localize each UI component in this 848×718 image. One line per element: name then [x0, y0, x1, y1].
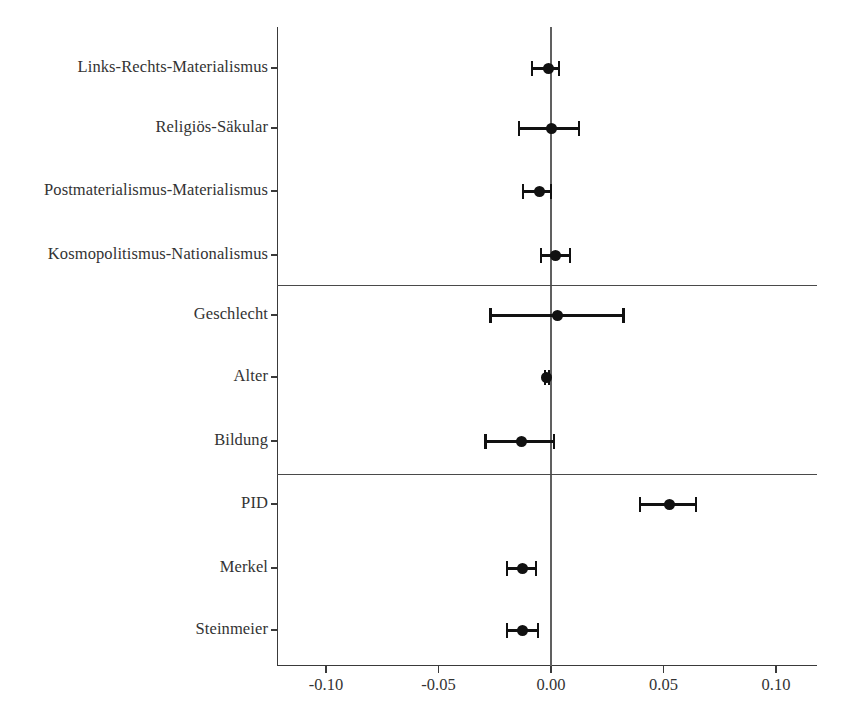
panel-separator-2: [277, 474, 817, 475]
coefficient-plot: Links-Rechts-MaterialismusReligiös-Säkul…: [0, 0, 848, 718]
confidence-interval-cap-lower: [518, 121, 521, 136]
x-axis-label-text: -0.10: [286, 676, 366, 694]
confidence-interval-cap-upper: [622, 308, 625, 323]
confidence-interval-cap-upper: [569, 248, 572, 263]
point-estimate-marker: [517, 563, 528, 574]
point-estimate-marker: [550, 250, 561, 261]
point-estimate-marker: [534, 186, 545, 197]
panel-separator-1: [277, 285, 817, 286]
confidence-interval-cap-upper: [578, 121, 581, 136]
point-estimate-marker: [541, 372, 552, 383]
confidence-interval-cap-lower: [531, 61, 534, 76]
estimate-row: [0, 59, 848, 77]
confidence-interval-cap-lower: [506, 561, 509, 576]
estimate-row: [0, 246, 848, 264]
x-tick-3: [663, 666, 664, 673]
estimate-row: [0, 621, 848, 639]
estimate-row: [0, 368, 848, 386]
confidence-interval-cap-lower: [489, 308, 492, 323]
confidence-interval-cap-upper: [558, 61, 561, 76]
estimate-row: [0, 119, 848, 137]
x-tick-1: [438, 666, 439, 673]
x-axis-label-text: 0.05: [624, 676, 704, 694]
x-tick-4: [775, 666, 776, 673]
confidence-interval-cap-upper: [535, 561, 538, 576]
estimate-row: [0, 182, 848, 200]
point-estimate-marker: [543, 63, 554, 74]
estimate-row: [0, 559, 848, 577]
confidence-interval-cap-upper: [695, 497, 698, 512]
point-estimate-marker: [516, 436, 527, 447]
confidence-interval-cap-lower: [506, 623, 509, 638]
point-estimate-marker: [517, 625, 528, 636]
x-axis-spine: [277, 665, 817, 666]
confidence-interval-cap-upper: [550, 184, 553, 199]
confidence-interval-cap-lower: [484, 434, 487, 449]
x-tick-2: [550, 666, 551, 673]
x-axis-label-text: 0.10: [736, 676, 816, 694]
confidence-interval-cap-upper: [537, 623, 540, 638]
confidence-interval-cap-upper: [553, 434, 556, 449]
confidence-interval-cap-lower: [540, 248, 543, 263]
estimate-row: [0, 306, 848, 324]
confidence-interval-cap-lower: [639, 497, 642, 512]
point-estimate-marker: [546, 123, 557, 134]
x-tick-0: [325, 666, 326, 673]
confidence-interval-cap-lower: [522, 184, 525, 199]
estimate-row: [0, 495, 848, 513]
point-estimate-marker: [552, 310, 563, 321]
estimate-row: [0, 432, 848, 450]
x-axis-label-text: 0.00: [511, 676, 591, 694]
point-estimate-marker: [664, 499, 675, 510]
x-axis-label-text: -0.05: [399, 676, 479, 694]
